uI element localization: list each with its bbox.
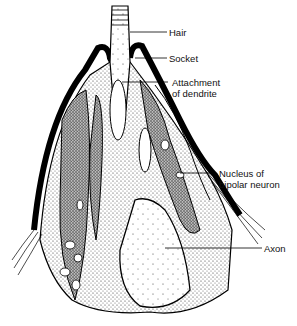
label-nucleus-line1: Nucleus of (219, 168, 264, 179)
label-attachment-line1: Attachment (172, 77, 220, 88)
anatomy-illustration (0, 0, 297, 326)
label-hair: Hair (169, 27, 186, 38)
label-axon: Axon (264, 243, 286, 254)
label-nucleus-line2: bipolar neuron (219, 179, 280, 190)
label-attachment-line2: of dendrite (172, 88, 217, 99)
label-socket: Socket (169, 53, 198, 64)
